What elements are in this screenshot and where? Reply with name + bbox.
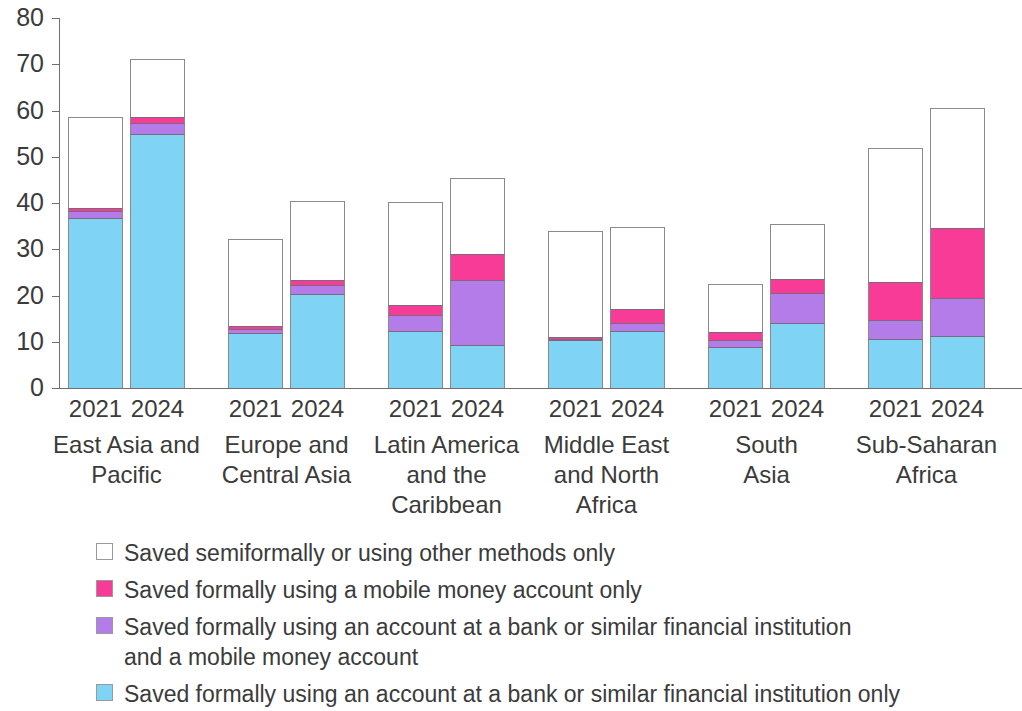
- x-axis-year-label: 2021: [861, 396, 931, 422]
- legend-label: Saved formally using an account at a ban…: [124, 679, 900, 709]
- bar-segment-bank-and-mobile: [450, 280, 505, 345]
- bar-segment-mobile-only: [548, 337, 603, 339]
- y-tick-label: 50: [0, 144, 44, 169]
- bar-segment-bank-only: [708, 347, 763, 388]
- bar-segment-bank-and-mobile: [708, 340, 763, 347]
- bar-europe-and-central-asia-2024: [290, 18, 345, 388]
- bar-segment-mobile-only: [290, 280, 345, 286]
- bar-segment-bank-only: [388, 331, 443, 388]
- x-axis-year-label: 2021: [221, 396, 291, 422]
- legend-swatch-icon: [96, 617, 113, 634]
- bar-segment-bank-and-mobile: [868, 320, 923, 338]
- group-label-line: Africa: [832, 460, 1022, 490]
- x-axis-group-label: Sub-SaharanAfrica: [832, 430, 1022, 490]
- bar-segment-mobile-only: [228, 326, 283, 328]
- group-label-line: Sub-Saharan: [832, 430, 1022, 460]
- legend-swatch-icon: [96, 580, 113, 597]
- bar-segment-bank-only: [290, 294, 345, 388]
- x-axis-year-label: 2024: [603, 396, 673, 422]
- group-label-line: Africa: [512, 490, 702, 520]
- y-tick-label: 0: [0, 375, 44, 400]
- bar-sub-saharan-africa-2024: [930, 18, 985, 388]
- bar-segment-bank-and-mobile: [130, 123, 185, 134]
- bar-latin-america-and-the-caribbean-2021: [388, 18, 443, 388]
- bar-segment-mobile-only: [708, 332, 763, 341]
- bar-segment-bank-only: [228, 333, 283, 388]
- chart-legend: Saved semiformally or using other method…: [96, 538, 996, 711]
- bar-segment-bank-and-mobile: [610, 323, 665, 331]
- bar-latin-america-and-the-caribbean-2024: [450, 18, 505, 388]
- bar-segment-bank-only: [930, 336, 985, 388]
- y-tick-label: 20: [0, 283, 44, 308]
- bar-segment-bank-and-mobile: [548, 339, 603, 341]
- y-tick-label: 40: [0, 190, 44, 215]
- y-tick-label: 10: [0, 329, 44, 354]
- bar-segment-mobile-only: [68, 208, 123, 211]
- bar-segment-bank-only: [68, 218, 123, 388]
- bar-segment-bank-and-mobile: [290, 285, 345, 294]
- legend-item[interactable]: Saved formally using an account at a ban…: [96, 612, 996, 672]
- y-tick-label: 70: [0, 51, 44, 76]
- bar-segment-bank-only: [868, 339, 923, 388]
- x-axis-year-label: 2021: [381, 396, 451, 422]
- x-axis-year-label: 2024: [443, 396, 513, 422]
- bar-middle-east-and-north-africa-2024: [610, 18, 665, 388]
- bar-segment-bank-only: [548, 340, 603, 388]
- bar-segment-bank-and-mobile: [68, 211, 123, 218]
- bar-sub-saharan-africa-2021: [868, 18, 923, 388]
- x-axis-year-label: 2024: [763, 396, 833, 422]
- bar-segment-bank-and-mobile: [770, 293, 825, 323]
- x-axis-year-label: 2021: [61, 396, 131, 422]
- bar-segment-bank-only: [130, 134, 185, 388]
- bar-segment-mobile-only: [450, 254, 505, 279]
- x-axis-line: [59, 388, 1022, 389]
- x-axis-year-label: 2024: [123, 396, 193, 422]
- legend-label: Saved semiformally or using other method…: [124, 538, 615, 568]
- bar-segment-mobile-only: [770, 279, 825, 293]
- bar-segment-bank-only: [610, 331, 665, 388]
- x-axis-year-label: 2021: [701, 396, 771, 422]
- bar-segment-bank-and-mobile: [388, 315, 443, 331]
- bar-south-asia-2021: [708, 18, 763, 388]
- y-tick-label: 80: [0, 5, 44, 30]
- bar-middle-east-and-north-africa-2021: [548, 18, 603, 388]
- y-tick-label: 30: [0, 236, 44, 261]
- x-axis-year-label: 2024: [923, 396, 993, 422]
- bar-europe-and-central-asia-2021: [228, 18, 283, 388]
- bar-segment-mobile-only: [930, 228, 985, 297]
- bar-segment-mobile-only: [868, 282, 923, 320]
- bars-layer: [59, 18, 1022, 388]
- legend-item[interactable]: Saved formally using a mobile money acco…: [96, 575, 996, 605]
- bar-segment-mobile-only: [388, 305, 443, 315]
- legend-item[interactable]: Saved semiformally or using other method…: [96, 538, 996, 568]
- legend-label: Saved formally using an account at a ban…: [124, 612, 851, 672]
- legend-swatch-icon: [96, 543, 113, 560]
- bar-segment-bank-and-mobile: [228, 329, 283, 333]
- x-axis-year-label: 2021: [541, 396, 611, 422]
- legend-label: Saved formally using a mobile money acco…: [124, 575, 642, 605]
- y-tick-label: 60: [0, 98, 44, 123]
- bar-segment-bank-only: [770, 323, 825, 388]
- bar-south-asia-2024: [770, 18, 825, 388]
- bar-segment-mobile-only: [130, 117, 185, 123]
- bar-segment-bank-only: [450, 345, 505, 388]
- legend-item[interactable]: Saved formally using an account at a ban…: [96, 679, 996, 709]
- bar-segment-bank-and-mobile: [930, 298, 985, 336]
- y-tick-mark: [52, 388, 60, 389]
- x-axis-year-label: 2024: [283, 396, 353, 422]
- bar-segment-mobile-only: [610, 309, 665, 323]
- legend-swatch-icon: [96, 684, 113, 701]
- bar-east-asia-and-pacific-2024: [130, 18, 185, 388]
- bar-east-asia-and-pacific-2021: [68, 18, 123, 388]
